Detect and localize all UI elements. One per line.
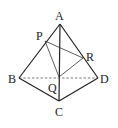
edge-CD bbox=[59, 78, 98, 101]
label-B: B bbox=[8, 72, 16, 86]
label-P: P bbox=[36, 29, 43, 43]
tetrahedron-diagram: A P R B Q D C bbox=[0, 0, 118, 128]
segment-QR bbox=[59, 58, 83, 77]
label-R: R bbox=[86, 50, 94, 64]
label-C: C bbox=[55, 105, 63, 119]
edge-AC bbox=[59, 24, 60, 101]
label-A: A bbox=[55, 9, 64, 23]
label-Q: Q bbox=[48, 81, 57, 95]
label-D: D bbox=[100, 72, 109, 86]
